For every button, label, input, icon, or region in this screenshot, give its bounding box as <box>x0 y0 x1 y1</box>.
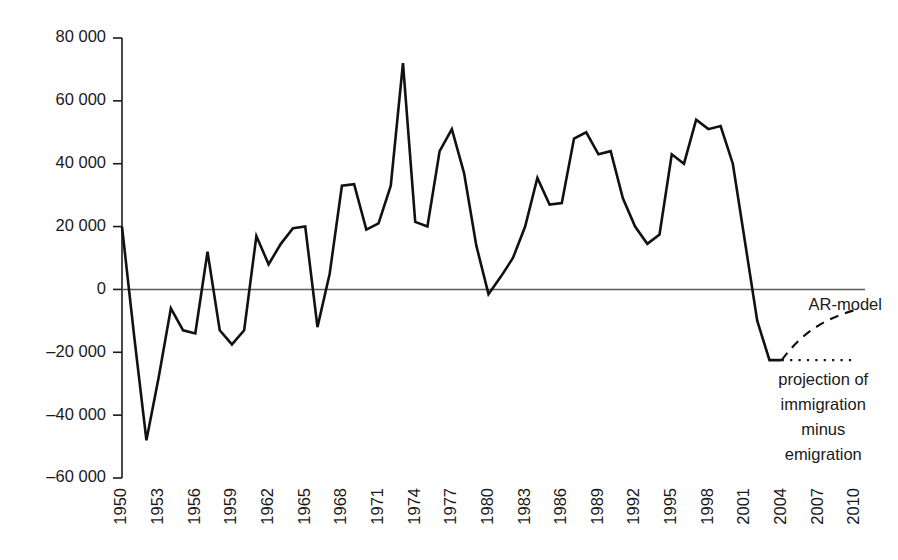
y-axis-tick-label: –60 000 <box>46 467 106 485</box>
x-axis-tick-label: 1959 <box>221 488 239 525</box>
y-axis-tick-labels: 80 00060 00040 00020 0000–20 000–40 000–… <box>46 27 106 485</box>
net-migration-series-line <box>122 63 782 440</box>
chart-container: 80 00060 00040 00020 0000–20 000–40 000–… <box>0 0 898 560</box>
y-axis-tick-label: –40 000 <box>46 405 106 423</box>
net-migration-line-chart: 80 00060 00040 00020 0000–20 000–40 000–… <box>0 0 898 560</box>
projection-annotation-caption: projection of immigration minus emigrati… <box>778 370 868 463</box>
x-axis-tick-label: 1953 <box>148 488 166 525</box>
y-axis-tick-label: 0 <box>97 279 106 297</box>
x-axis-tick-label: 1977 <box>441 488 459 525</box>
x-axis-tick-label: 2001 <box>734 488 752 525</box>
x-axis-tick-label: 1992 <box>624 488 642 525</box>
x-axis-tick-label: 1983 <box>515 488 533 525</box>
x-axis-tick-label: 1968 <box>331 488 349 525</box>
y-axis-tick-label: 60 000 <box>56 90 106 108</box>
x-axis-tick-label: 1950 <box>111 488 129 525</box>
y-axis-tick-label: 40 000 <box>56 153 106 171</box>
ar-model-dashed-curve <box>782 310 855 360</box>
x-axis-tick-label: 2004 <box>771 488 789 525</box>
x-axis-tick-label: 1995 <box>661 488 679 525</box>
x-axis-tick-label: 1986 <box>551 488 569 525</box>
projection-caption-line-2: immigration <box>781 395 866 413</box>
x-axis-tick-labels: 1950195319561959196219651968197119741977… <box>111 488 862 525</box>
x-axis-tick-label: 1971 <box>368 488 386 525</box>
projection-caption-line-1: projection of <box>778 370 868 388</box>
x-axis-tick-label: 1998 <box>698 488 716 525</box>
x-axis-tick-label: 1965 <box>295 488 313 525</box>
y-axis-tick-label: –20 000 <box>46 342 106 360</box>
y-axis-tick-label: 80 000 <box>56 27 106 45</box>
x-axis-tick-label: 2010 <box>844 488 862 525</box>
y-axis-tick-label: 20 000 <box>56 216 106 234</box>
x-axis-tick-label: 1962 <box>258 488 276 525</box>
y-axis-tick-marks <box>113 38 122 478</box>
projection-caption-line-3: minus <box>801 420 845 438</box>
projection-caption-line-4: emigration <box>785 445 862 463</box>
x-axis-tick-label: 1974 <box>405 488 423 525</box>
x-axis-tick-label: 1956 <box>185 488 203 525</box>
x-axis-tick-label: 1980 <box>478 488 496 525</box>
x-axis-tick-label: 2007 <box>808 488 826 525</box>
ar-model-annotation-label: AR-model <box>809 295 882 313</box>
x-axis-tick-label: 1989 <box>588 488 606 525</box>
